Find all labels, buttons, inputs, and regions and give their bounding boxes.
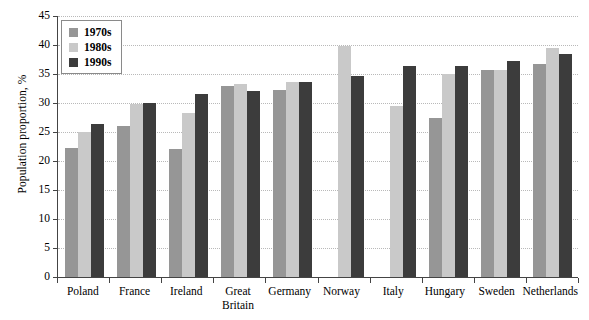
x-tick-mark [57, 278, 58, 283]
y-tick-label: 30 [39, 97, 51, 109]
bar-group [474, 16, 526, 277]
bar [533, 64, 546, 277]
y-tick-label: 35 [39, 68, 51, 80]
bar [403, 66, 416, 277]
legend: 1970s1980s1990s [61, 20, 122, 74]
x-axis-label: Poland [57, 285, 109, 312]
bar [351, 76, 364, 277]
x-tick-mark [370, 278, 371, 283]
bar [117, 126, 130, 277]
x-tick-mark [474, 278, 475, 283]
y-tick-label: 15 [39, 184, 51, 196]
bar [143, 103, 156, 277]
x-axis-label: Hungary [419, 285, 471, 312]
bar [273, 90, 286, 277]
legend-swatch-icon [69, 58, 78, 67]
x-tick-mark [161, 278, 162, 283]
y-tick-label: 25 [39, 126, 51, 138]
bar-group [526, 16, 578, 277]
x-axis-label: Germany [264, 285, 316, 312]
legend-label: 1980s [84, 41, 111, 53]
bar-group [422, 16, 474, 277]
bar-chart: Population proportion, % 051015202530354… [0, 0, 589, 320]
bar-group [318, 16, 370, 277]
legend-label: 1970s [84, 26, 111, 38]
bar-group [162, 16, 214, 277]
legend-label: 1990s [84, 56, 111, 68]
x-axis-label: France [109, 285, 161, 312]
legend-item: 1970s [69, 26, 111, 38]
y-tick-label: 5 [44, 242, 50, 254]
x-tick-mark [526, 278, 527, 283]
bar [338, 46, 351, 277]
x-tick-mark [265, 278, 266, 283]
bar [130, 104, 143, 277]
x-tick-mark [318, 278, 319, 283]
bar [507, 61, 520, 277]
bar [390, 106, 403, 277]
x-axis-label: Great Britain [212, 285, 264, 312]
x-axis-label: Ireland [160, 285, 212, 312]
bar [195, 94, 208, 277]
bar [429, 118, 442, 277]
bar [234, 84, 247, 277]
x-tick-mark [422, 278, 423, 283]
bar [247, 91, 260, 277]
bar [169, 149, 182, 277]
x-axis: PolandFranceIrelandGreat BritainGermanyN… [57, 278, 578, 320]
x-axis-label: Sweden [471, 285, 523, 312]
legend-item: 1980s [69, 41, 111, 53]
x-tick-mark [578, 278, 579, 283]
x-axis-label: Norway [316, 285, 368, 312]
bar [286, 82, 299, 277]
bar [221, 86, 234, 277]
y-tick-label: 40 [39, 39, 51, 51]
bar [494, 70, 507, 277]
bar [546, 48, 559, 277]
x-axis-label: Netherlands [522, 285, 578, 312]
y-axis-title: Population proportion, % [16, 34, 28, 234]
bar-group [266, 16, 318, 277]
x-axis-label: Italy [367, 285, 419, 312]
y-tick-label: 45 [39, 10, 51, 22]
legend-item: 1990s [69, 56, 111, 68]
bar [299, 82, 312, 277]
bar [455, 66, 468, 277]
y-tick-label: 10 [39, 213, 51, 225]
y-tick-label: 0 [44, 271, 50, 283]
bar-group [214, 16, 266, 277]
bar [559, 54, 572, 277]
bar [481, 70, 494, 277]
x-tick-mark [213, 278, 214, 283]
bar [91, 124, 104, 277]
bar [78, 132, 91, 277]
x-axis-labels: PolandFranceIrelandGreat BritainGermanyN… [57, 285, 578, 312]
bar-group [370, 16, 422, 277]
plot-area: 051015202530354045 [57, 16, 578, 278]
x-axis-ticks [57, 278, 578, 284]
y-tick-label: 20 [39, 155, 51, 167]
x-tick-mark [109, 278, 110, 283]
legend-swatch-icon [69, 28, 78, 37]
bar [182, 113, 195, 277]
bar [65, 148, 78, 277]
legend-swatch-icon [69, 43, 78, 52]
bar [442, 74, 455, 277]
bars-layer [58, 16, 578, 277]
